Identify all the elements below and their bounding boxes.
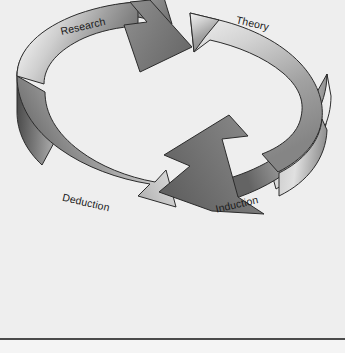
diagram-page: Research Theory Deduction Induction <box>0 0 345 353</box>
page-footer-margin <box>0 340 345 353</box>
research-cycle-final <box>0 0 345 353</box>
